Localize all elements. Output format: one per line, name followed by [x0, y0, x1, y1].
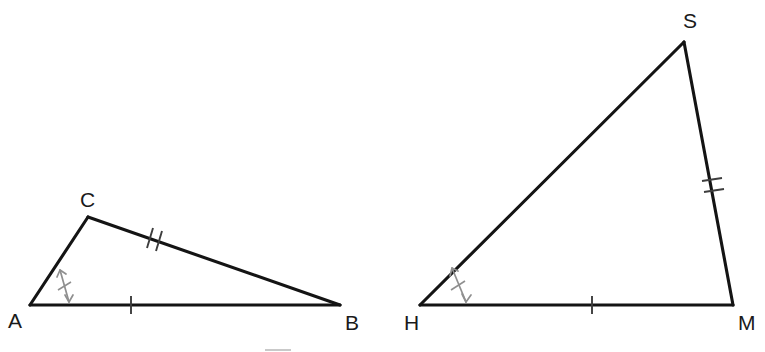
triangle-hsm: H M S: [404, 9, 756, 334]
triangles-canvas: A B C H: [0, 0, 765, 352]
vertex-label-b: B: [345, 311, 359, 334]
side-cb: [88, 217, 340, 305]
side-sm: [684, 42, 733, 305]
geometry-figure: A B C H: [0, 0, 765, 352]
angle-mark-a: [57, 270, 73, 302]
vertex-label-m: M: [738, 311, 756, 334]
side-hs: [420, 42, 684, 305]
side-ac: [30, 217, 88, 305]
triangle-abc: A B C: [8, 188, 359, 334]
vertex-label-h: H: [404, 311, 419, 334]
tick-mark-sm-double: [702, 178, 724, 192]
vertex-label-s: S: [683, 9, 697, 32]
vertex-label-a: A: [8, 309, 22, 332]
vertex-label-c: C: [80, 188, 95, 211]
